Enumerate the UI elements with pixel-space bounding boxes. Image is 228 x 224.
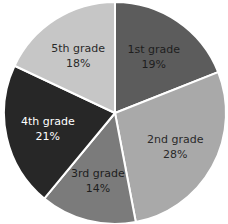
slice-label-category-2nd-grade: 2nd grade (147, 133, 204, 146)
slice-label-percent-1st-grade: 19% (141, 58, 165, 71)
slice-label-percent-5th-grade: 18% (66, 57, 90, 70)
slice-label-percent-3rd-grade: 14% (86, 182, 110, 195)
pie-chart: 1st grade19%2nd grade28%3rd grade14%4th … (0, 0, 228, 224)
slice-label-category-5th-grade: 5th grade (51, 42, 105, 55)
slice-label-percent-2nd-grade: 28% (163, 148, 187, 161)
slice-label-category-4th-grade: 4th grade (21, 115, 75, 128)
slice-label-percent-4th-grade: 21% (36, 130, 60, 143)
slice-label-category-3rd-grade: 3rd grade (71, 167, 125, 180)
slice-label-category-1st-grade: 1st grade (127, 43, 180, 56)
pie-slices (4, 2, 226, 224)
